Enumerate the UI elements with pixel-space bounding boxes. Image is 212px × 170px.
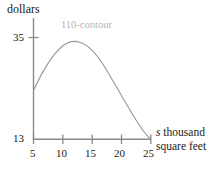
contour-annotation-label: 110-contour — [61, 20, 112, 31]
x-axis-variable: s — [156, 126, 160, 138]
contour-curve — [34, 41, 151, 139]
x-tick-label-10: 10 — [56, 148, 67, 159]
x-tick-label-5: 5 — [30, 148, 36, 159]
y-tick-label-13: 13 — [13, 133, 24, 144]
x-tick-label-20: 20 — [114, 148, 125, 159]
chart-figure: dollars 35 13 110-contour 5 10 15 20 25 … — [0, 0, 212, 170]
y-tick-label-35: 35 — [13, 32, 24, 43]
x-axis-title-word: thousand — [163, 126, 205, 138]
y-axis-title: dollars — [7, 3, 40, 15]
x-axis-title-line2: square feet — [156, 140, 206, 154]
x-axis-title: s thousand square feet — [156, 126, 206, 153]
x-axis-title-line1: s thousand — [156, 126, 206, 140]
x-tick-label-25: 25 — [143, 148, 154, 159]
x-tick-label-15: 15 — [85, 148, 96, 159]
